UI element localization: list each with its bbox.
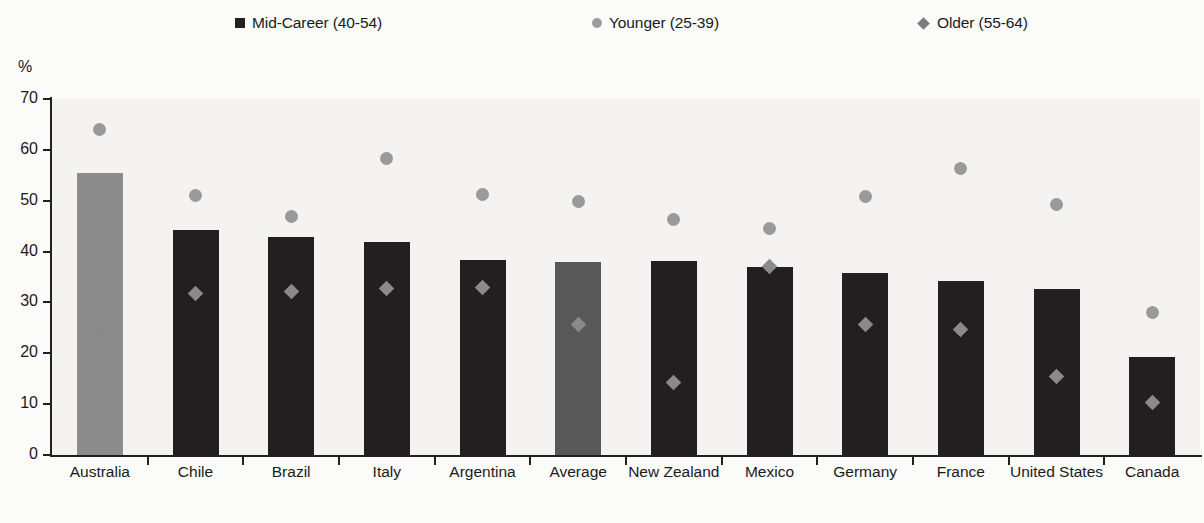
y-axis-tick [43, 301, 52, 303]
x-label-italy: Italy [333, 462, 441, 481]
y-axis-tick-label: 40 [0, 242, 38, 260]
x-label-brazil: Brazil [237, 462, 345, 481]
x-label-argentina: Argentina [429, 462, 537, 481]
bar-italy[interactable] [364, 242, 410, 455]
x-label-mexico: Mexico [716, 462, 824, 481]
y-axis-tick [43, 251, 52, 253]
marker-circle-canada[interactable] [1146, 306, 1159, 319]
bar-average[interactable] [555, 262, 601, 455]
bar-germany[interactable] [842, 273, 888, 455]
marker-circle-average[interactable] [572, 195, 585, 208]
x-label-france: France [907, 462, 1015, 481]
bar-australia[interactable] [77, 173, 123, 455]
y-axis-tick-label: 70 [0, 89, 38, 107]
y-axis-tick [43, 352, 52, 354]
chart-legend: Mid-Career (40-54) Younger (25-39) Older… [0, 10, 1204, 36]
bar-chile[interactable] [173, 230, 219, 455]
bar-mexico[interactable] [747, 267, 793, 455]
legend-label-mid-career: Mid-Career (40-54) [252, 14, 382, 32]
bar-france[interactable] [938, 281, 984, 455]
legend-item-mid-career[interactable]: Mid-Career (40-54) [235, 14, 382, 32]
plot-area [52, 99, 1200, 455]
x-label-canada: Canada [1098, 462, 1204, 481]
x-label-united-states: United States [1003, 462, 1111, 481]
y-axis-tick [43, 200, 52, 202]
x-label-germany: Germany [811, 462, 919, 481]
legend-item-older[interactable]: Older (55-64) [918, 14, 1028, 32]
circle-marker-icon [592, 18, 602, 28]
legend-item-younger[interactable]: Younger (25-39) [592, 14, 719, 32]
x-label-chile: Chile [142, 462, 250, 481]
y-axis-tick [43, 149, 52, 151]
square-marker-icon [235, 18, 245, 28]
y-axis-tick [43, 98, 52, 100]
y-axis-tick-label: 50 [0, 191, 38, 209]
x-label-australia: Australia [46, 462, 154, 481]
y-axis-tick-label: 60 [0, 140, 38, 158]
bar-new-zealand[interactable] [651, 261, 697, 455]
marker-circle-germany[interactable] [859, 190, 872, 203]
legend-label-older: Older (55-64) [937, 14, 1028, 32]
marker-circle-france[interactable] [954, 162, 967, 175]
marker-circle-new-zealand[interactable] [667, 213, 680, 226]
y-axis-tick-label: 20 [0, 343, 38, 361]
y-axis-tick-labels: 010203040506070 [0, 0, 40, 523]
y-axis-tick [43, 454, 52, 456]
chart-container: Mid-Career (40-54) Younger (25-39) Older… [0, 0, 1204, 523]
y-axis-tick-label: 10 [0, 394, 38, 412]
y-axis-tick-label: 0 [0, 445, 38, 463]
x-label-average: Average [524, 462, 632, 481]
diamond-marker-icon [917, 17, 930, 30]
x-label-new-zealand: New Zealand [620, 462, 728, 481]
y-axis-tick [43, 403, 52, 405]
marker-circle-argentina[interactable] [476, 188, 489, 201]
legend-label-younger: Younger (25-39) [609, 14, 719, 32]
y-axis-tick-label: 30 [0, 292, 38, 310]
bar-brazil[interactable] [268, 237, 314, 455]
